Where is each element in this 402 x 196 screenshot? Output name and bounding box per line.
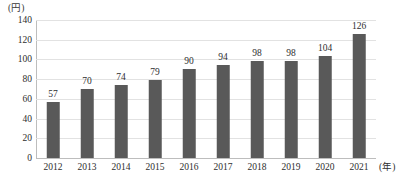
bar-value-label: 74: [116, 72, 126, 83]
bar-value-label: 90: [184, 56, 194, 67]
y-axis-tick-label: 40: [2, 114, 32, 124]
bar[interactable]: [251, 61, 264, 158]
x-axis-tick-group: 2012201320142015201620172018201920202021: [36, 161, 376, 181]
y-axis-tick-label: 140: [2, 15, 32, 25]
x-axis-tick-label: 2016: [172, 161, 206, 173]
x-axis-tick-label: 2018: [240, 161, 274, 173]
bar-slot: 126: [342, 20, 376, 158]
x-axis-tick-label: 2014: [104, 161, 138, 173]
bar-value-label: 94: [218, 52, 228, 63]
bar[interactable]: [149, 80, 162, 158]
bar[interactable]: [353, 34, 366, 158]
bar-value-label: 79: [150, 67, 160, 78]
bar-slot: 90: [172, 20, 206, 158]
bar-slot: 70: [70, 20, 104, 158]
x-axis-tick-label: 2019: [274, 161, 308, 173]
y-axis-tick-label: 100: [2, 54, 32, 64]
bar-slot: 98: [240, 20, 274, 158]
bar-slot: 98: [274, 20, 308, 158]
bar-slot: 79: [138, 20, 172, 158]
x-axis-tick-label: 2013: [70, 161, 104, 173]
y-axis-tick-label: 60: [2, 94, 32, 104]
bar[interactable]: [217, 65, 230, 158]
x-axis-tick-label: 2020: [308, 161, 342, 173]
bar[interactable]: [183, 69, 196, 158]
bar-slot: 104: [308, 20, 342, 158]
y-axis-tick-label: 80: [2, 74, 32, 84]
plot-area: 5770747990949898104126: [36, 20, 376, 158]
x-axis-unit-label: (年): [379, 161, 395, 173]
y-axis-unit-label: (円): [8, 2, 24, 14]
x-axis-tick-label: 2015: [138, 161, 172, 173]
x-axis-baseline: [36, 158, 376, 159]
bar-slot: 57: [36, 20, 70, 158]
bar[interactable]: [319, 56, 332, 159]
bar-chart: (円) 5770747990949898104126 1401201008060…: [0, 0, 402, 196]
bar[interactable]: [81, 89, 94, 158]
bar-value-label: 104: [318, 43, 332, 54]
bar[interactable]: [47, 102, 60, 158]
bar[interactable]: [115, 85, 128, 158]
bar-value-label: 70: [82, 76, 92, 87]
y-axis-tick-label: 0: [2, 153, 32, 163]
bar-value-label: 98: [286, 48, 296, 59]
y-axis-tick-label: 120: [2, 35, 32, 45]
x-axis-tick-label: 2012: [36, 161, 70, 173]
bar-slot: 74: [104, 20, 138, 158]
bar-slot: 94: [206, 20, 240, 158]
bar-value-label: 98: [252, 48, 262, 59]
x-axis-tick-label: 2021: [342, 161, 376, 173]
bar-value-label: 57: [48, 89, 58, 100]
bar-value-label: 126: [352, 21, 366, 32]
x-axis-tick-label: 2017: [206, 161, 240, 173]
y-axis-tick-label: 20: [2, 133, 32, 143]
bar[interactable]: [285, 61, 298, 158]
